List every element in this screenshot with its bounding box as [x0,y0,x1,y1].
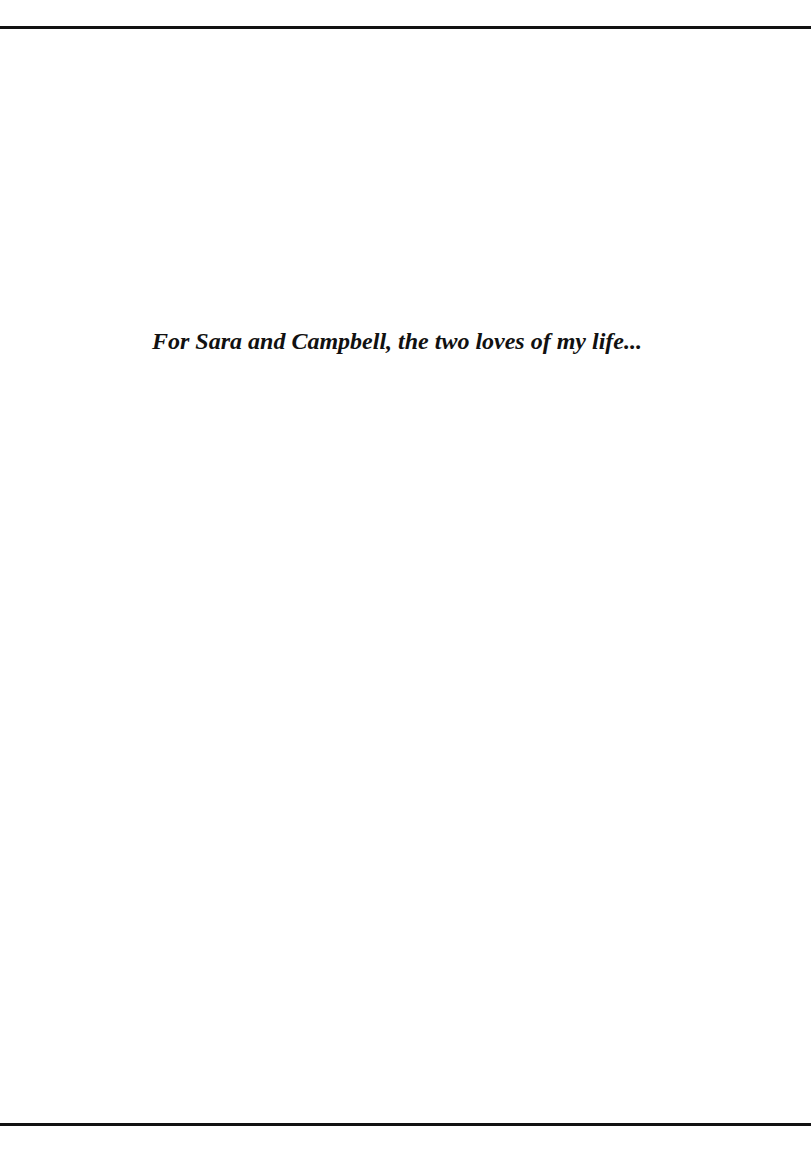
bottom-rule [0,1123,811,1126]
top-rule [0,26,811,29]
dedication-text: For Sara and Campbell, the two loves of … [152,326,642,356]
